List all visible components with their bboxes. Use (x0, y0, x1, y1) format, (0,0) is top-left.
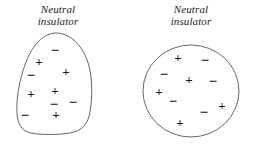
left-charge-negative-7: − (69, 96, 78, 109)
left-charge-negative-2: − (27, 69, 36, 82)
right-charge-negative-8: − (200, 106, 209, 119)
left-charge-positive-1: + (35, 55, 42, 68)
left-charge-negative-8: − (21, 109, 30, 122)
left-charge-positive-3: + (62, 65, 69, 78)
right-charge-positive-3: + (185, 73, 192, 86)
right-charge-negative-6: − (169, 95, 178, 108)
right-charge-negative-2: − (160, 68, 169, 81)
neutral-insulator-figure: Neutral insulator Neutral insulator −+−+… (0, 0, 253, 146)
right-charge-negative-1: − (201, 54, 210, 67)
right-charge-positive-0: + (174, 51, 181, 64)
left-charge-positive-4: + (27, 87, 34, 100)
left-charge-positive-9: + (52, 108, 59, 121)
left-charge-negative-0: − (51, 44, 60, 57)
right-charge-positive-7: + (218, 99, 225, 112)
right-charge-positive-9: + (176, 116, 183, 129)
right-charge-positive-5: + (155, 85, 162, 98)
right-charge-negative-4: − (209, 75, 218, 88)
